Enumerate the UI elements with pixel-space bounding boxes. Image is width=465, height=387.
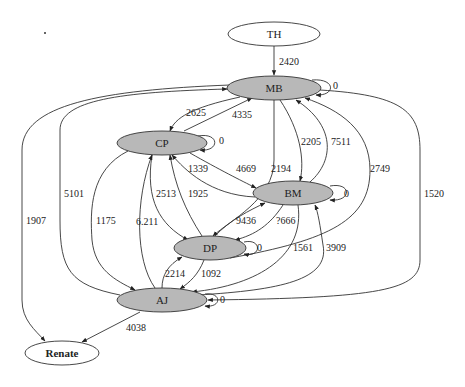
node-th-label: TH xyxy=(267,28,282,40)
edge-label-dp-mb: 2749 xyxy=(370,163,390,174)
edge-label-cp-cp: 0 xyxy=(219,135,224,146)
edge-label-dp-bm: 9436 xyxy=(236,215,256,226)
node-mb-label: MB xyxy=(265,82,282,94)
edge-label-bm-bm: 0 xyxy=(344,188,349,199)
edge-label-mb-aj: 1520 xyxy=(424,188,444,199)
edge-label-bm-dp: ?666 xyxy=(276,215,295,226)
edge-label-cp-aj: 1175 xyxy=(96,215,116,226)
edge-label-aj-bm: 3909 xyxy=(326,242,346,253)
edge-label-mb-cp: 2625 xyxy=(186,107,206,118)
edge-bm-cp xyxy=(172,155,255,197)
stray-dot xyxy=(44,32,46,34)
edge-label-dp-cp: 1925 xyxy=(188,188,208,199)
node-th[interactable]: TH xyxy=(228,22,320,46)
edge-label-dp-aj: 1092 xyxy=(201,268,221,279)
edge-label-th-mb: 2420 xyxy=(279,56,299,67)
edge-label-cp-bm: 4669 xyxy=(236,163,256,174)
edge-label-mb-mb: 0 xyxy=(333,80,338,91)
edge-label-mb-bm: 2205 xyxy=(301,136,321,147)
edge-label-cp-dp: 2513 xyxy=(156,188,176,199)
node-dp[interactable]: DP xyxy=(174,236,246,260)
node-renate[interactable]: Renate xyxy=(25,341,99,365)
edge-label-cp-mb: 4335 xyxy=(232,109,252,120)
node-aj-label: AJ xyxy=(156,294,169,306)
edge-label-bm-mb: 7511 xyxy=(331,136,351,147)
node-renate-label: Renate xyxy=(46,347,79,359)
edge-label-mb-renate: 1907 xyxy=(26,215,46,226)
node-cp[interactable]: CP xyxy=(117,131,207,155)
node-bm-label: BM xyxy=(284,187,301,199)
directed-graph: TH MB CP BM DP AJ Renate 2420 0 262 xyxy=(0,0,465,387)
edge-label-bm-cp: 1339 xyxy=(188,163,208,174)
node-cp-label: CP xyxy=(155,137,168,149)
edge-label-bm-aj: 1561 xyxy=(293,242,313,253)
edge-label-aj-renate: 4038 xyxy=(126,322,146,333)
edge-label-dp-dp: 0 xyxy=(257,242,262,253)
node-bm[interactable]: BM xyxy=(253,181,333,205)
edge-label-aj-mb: 5101 xyxy=(64,188,84,199)
node-aj[interactable]: AJ xyxy=(117,288,207,312)
edge-label-aj-cp: 6.211 xyxy=(136,216,158,227)
edge-label-aj-dp: 2214 xyxy=(165,268,185,279)
edge-label-aj-aj: 0 xyxy=(220,294,225,305)
edge-label-mb-dp: 2194 xyxy=(271,163,291,174)
node-mb[interactable]: MB xyxy=(227,76,321,100)
node-dp-label: DP xyxy=(203,242,217,254)
